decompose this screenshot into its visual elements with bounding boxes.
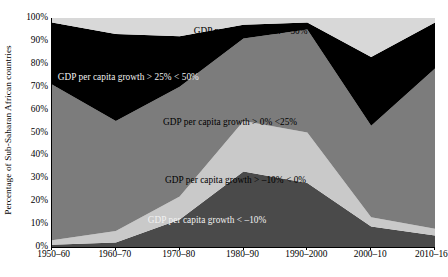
x-axis-tick-label: 1980–90: [226, 250, 259, 259]
y-axis-tick-label: 40%: [14, 151, 48, 160]
y-axis-tick-label: 50%: [14, 128, 48, 137]
x-axis-tick-mark: [306, 247, 307, 250]
band-label: GDP per capita growth > 50%: [194, 27, 308, 36]
area-series-svg: GDP per capita growth < –10%GDP per capi…: [52, 18, 435, 247]
x-axis-tick-mark: [179, 247, 180, 250]
x-axis-tick-labels: 1950–601960–701970–801980–901990–2000200…: [51, 250, 434, 268]
x-axis-tick-mark: [434, 247, 435, 250]
y-axis-tick-label: 10%: [14, 219, 48, 228]
y-axis-tick-label: 100%: [14, 13, 48, 22]
x-axis-tick-mark: [51, 247, 52, 250]
x-axis-tick-mark: [243, 247, 244, 250]
y-axis-tick-label: 90%: [14, 36, 48, 45]
x-axis-tick-label: 2000–10: [354, 250, 387, 259]
x-axis-tick-label: 1960–70: [98, 250, 131, 259]
y-axis-tick-label: 60%: [14, 105, 48, 114]
x-axis-tick-label: 1950–60: [37, 250, 70, 259]
y-axis-tick-labels: 0%10%20%30%40%50%60%70%80%90%100%: [14, 0, 48, 277]
x-axis-tick-label: 1990–2000: [285, 250, 327, 259]
y-axis-title-text: Percentage of Sub-Saharan African countr…: [3, 45, 13, 215]
x-axis-tick-label: 1970–80: [162, 250, 195, 259]
band-label: GDP per capita growth > –10% < 0%: [165, 176, 306, 185]
x-axis-tick-label: 2010–16: [415, 250, 448, 259]
y-axis-tick-label: 80%: [14, 59, 48, 68]
y-axis-tick-label: 30%: [14, 174, 48, 183]
band-label: GDP per capita growth < –10%: [148, 216, 267, 225]
band-label: GDP per capita growth > 0% <25%: [163, 118, 297, 127]
band-label: GDP per capita growth > 25% < 50%: [58, 73, 199, 82]
plot-area: GDP per capita growth < –10%GDP per capi…: [51, 18, 435, 248]
x-axis-tick-mark: [370, 247, 371, 250]
y-axis-tick-label: 70%: [14, 82, 48, 91]
y-axis-tick-label: 20%: [14, 196, 48, 205]
x-axis-tick-mark: [115, 247, 116, 250]
